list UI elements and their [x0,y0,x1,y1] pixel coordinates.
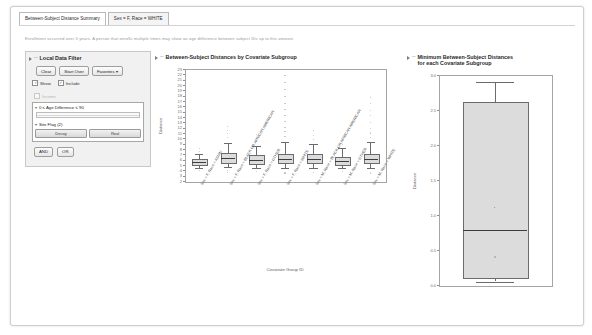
tab-between-subject-distance-summary[interactable]: Between-Subject Distance Summary [19,12,106,26]
y-axis-tick-label: 0.5 [417,248,436,253]
favorites-button[interactable]: Favorites ▾ [92,66,123,76]
disclosure-triangle-icon[interactable] [155,56,158,60]
boxplot-outlier [256,134,257,135]
y-axis-tick-label: 1.0 [417,213,436,218]
y-axis-tick [183,112,185,113]
age-difference-range-slider[interactable] [36,112,140,118]
y-axis-tick [183,122,185,123]
boxplot-outlier [284,172,285,173]
disclosure-triangle-icon[interactable] [407,56,410,60]
y-axis-label: Distance [158,118,163,134]
minus-icon[interactable]: ─ [160,53,164,59]
main-chart-header[interactable]: ─ Between-Subject Distances by Covariate… [155,51,401,61]
minus-icon[interactable]: ─ [34,54,38,60]
site-flag-value-decoy[interactable]: Decoy [35,129,87,138]
filter-panel-title: Local Data Filter [40,55,82,61]
boxplot-whisker-cap [281,168,289,169]
checkbox-icon[interactable] [34,93,40,99]
boxplot-whisker-cap [476,282,514,283]
boxplot-whisker-cap [252,168,260,169]
y-axis-tick-label: 8 [163,147,182,152]
chevron-down-icon[interactable]: ▾ [35,106,37,110]
min-chart-plot-area[interactable]: 0.00.51.01.52.02.53.0Distance [407,69,569,313]
y-axis-tick [437,110,439,111]
y-axis-tick-label: 6 [163,157,182,162]
y-axis-tick-label: 2.0 [417,143,436,148]
y-axis-tick [183,96,185,97]
boxplot-whisker [342,148,343,157]
y-axis-tick-label: 20 [163,83,182,88]
boxplot-outlier [284,109,285,110]
boxplot-outlier [342,144,343,145]
y-axis-tick [183,106,185,107]
min-chart-title-line2: for each Covariate Subgroup [418,60,514,66]
boxplot-median-line [364,159,378,160]
include-checkbox[interactable]: ✓ Include [58,80,80,86]
y-axis-tick-label: 7 [163,152,182,157]
y-axis-tick [183,170,185,171]
y-axis-tick [437,75,439,76]
between-subject-distances-chart-panel: ─ Between-Subject Distances by Covariate… [155,51,401,315]
income-filter-item[interactable]: Income [34,93,150,99]
checkbox-icon[interactable]: ✓ [58,80,64,86]
minus-icon[interactable]: ─ [412,53,416,59]
disclosure-triangle-icon[interactable] [29,57,32,61]
y-axis-tick-label: 13 [163,120,182,125]
y-axis-tick [183,128,185,129]
y-axis-tick-label: 9 [163,141,182,146]
clear-button[interactable]: Clear [36,66,56,76]
filter-panel-header[interactable]: ─ Local Data Filter [26,52,150,62]
tab-bar-divider [19,25,575,26]
boxplot-median-line [221,158,235,159]
show-checkbox[interactable]: ✓ Show [32,80,51,86]
age-difference-filter-row[interactable]: ▾ 0 ≤ Age Difference ≤ 90 [35,105,141,110]
boxplot-whisker [256,146,257,156]
boxplot-median-line [307,159,321,160]
include-checkbox-label: Include [66,81,80,86]
checkbox-icon[interactable]: ✓ [32,80,38,86]
boxplot-whisker-cap [367,168,375,169]
y-axis-label: Distance [412,173,417,189]
y-axis-tick [183,101,185,102]
boxplot-median-line [463,230,527,231]
income-filter-label: Income [42,94,56,99]
site-flag-value-real[interactable]: Real [89,129,141,138]
y-axis-tick [183,181,185,182]
and-button[interactable]: AND [34,147,53,157]
chevron-down-icon[interactable]: ▾ [35,123,37,127]
boxplot-outlier [284,115,285,116]
boxplot-whisker-cap [338,148,346,149]
boxplot-outlier [199,151,200,152]
show-checkbox-label: Show [40,81,51,86]
y-axis-tick-label: 12 [163,125,182,130]
or-button[interactable]: OR [57,147,73,157]
y-axis-tick [183,133,185,134]
start-over-button[interactable]: Start Over [59,66,89,76]
boxplot-median-line [278,159,292,160]
boxplot-whisker-cap [309,168,317,169]
main-chart-title: Between-Subject Distances by Covariate S… [166,54,297,60]
local-data-filter-panel: ─ Local Data Filter Clear Start Over Fav… [25,51,151,167]
y-axis-tick-label: 4 [163,168,182,173]
boxplot-outlier [342,171,343,172]
y-axis-tick-label: 2.5 [417,108,436,113]
y-axis-tick [183,80,185,81]
boxplot-whisker-cap [476,82,514,83]
x-axis-label: Covariate Group ID [185,267,385,272]
boxplot-outlier [284,75,285,76]
site-flag-filter-row[interactable]: ▾ Site Flag (2) [35,122,141,127]
min-chart-header[interactable]: ─ Minimum Between-Subject Distances for … [407,51,569,68]
y-axis-tick-label: 18 [163,93,182,98]
boxplot-whisker-cap [338,168,346,169]
boxplot-median-line [192,162,206,163]
boxplot-outlier [342,140,343,141]
y-axis-tick [437,215,439,216]
tab-sex-f-race-white[interactable]: Sex = F, Race = WHITE [108,12,169,26]
boxplot-whisker [228,143,229,154]
y-axis-tick-label: 22 [163,72,182,77]
y-axis-tick [183,90,185,91]
boxplot-whisker-cap [281,142,289,143]
boxplot-whisker [495,82,496,102]
main-chart-plot-area[interactable]: 234567891011121314151617181920212223Dist… [155,63,401,313]
boxplot-whisker-cap [224,143,232,144]
